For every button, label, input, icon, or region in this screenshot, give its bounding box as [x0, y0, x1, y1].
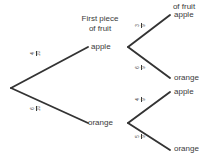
probability-apple-orange: 6 9 — [136, 62, 147, 73]
probability-apple-apple-numerator: 3 — [136, 20, 141, 31]
header-first-piece-line2: of fruit — [68, 24, 132, 34]
probability-apple-orange-denominator: 9 — [142, 62, 147, 73]
probability-orange-orange: 5 9 — [136, 131, 147, 142]
probability-root-orange-denominator: 10 — [37, 103, 42, 114]
branch-apple-orange — [128, 47, 170, 78]
probability-root-apple-numerator: 4 — [31, 48, 36, 59]
header-first-piece-line1: First piece — [68, 14, 132, 24]
node-level2-orange-apple: apple — [174, 87, 194, 97]
probability-root-orange: 6 10 — [31, 103, 42, 114]
probability-orange-apple-numerator: 4 — [136, 94, 141, 105]
probability-apple-apple: 3 9 — [136, 20, 147, 31]
probability-orange-apple-denominator: 9 — [142, 94, 147, 105]
branch-orange-apple — [128, 92, 170, 123]
probability-apple-orange-numerator: 6 — [136, 62, 141, 73]
node-level2-apple-apple: apple — [174, 10, 194, 20]
node-level1-orange: orange — [88, 118, 113, 128]
probability-root-orange-numerator: 6 — [31, 103, 36, 114]
probability-apple-apple-denominator: 9 — [142, 20, 147, 31]
probability-orange-orange-denominator: 9 — [142, 131, 147, 142]
probability-tree-diagram: First piece of fruit of fruit apple oran… — [0, 0, 214, 155]
probability-root-apple-denominator: 10 — [37, 48, 42, 59]
node-level2-orange-orange: orange — [174, 144, 199, 154]
probability-orange-orange-numerator: 5 — [136, 131, 141, 142]
branch-apple-apple — [128, 15, 170, 47]
probability-orange-apple: 4 9 — [136, 94, 147, 105]
branch-root-orange — [11, 88, 88, 123]
probability-root-apple: 4 10 — [31, 48, 42, 59]
node-level2-apple-orange: orange — [174, 73, 199, 83]
node-level1-apple: apple — [91, 42, 111, 52]
branch-root-apple — [11, 47, 88, 88]
